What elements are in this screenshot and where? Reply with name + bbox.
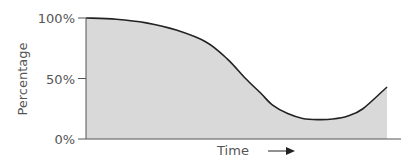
y-tick-label: 100% <box>38 11 75 26</box>
x-axis-arrow-head <box>286 147 295 155</box>
x-axis-label: Time <box>216 143 249 158</box>
y-axis-label: Percentage <box>15 42 30 115</box>
area-fill <box>86 18 387 139</box>
y-tick-label: 50% <box>46 72 75 87</box>
chart: 0%50%100% Percentage Time <box>0 0 419 163</box>
y-tick-label: 0% <box>54 132 75 147</box>
